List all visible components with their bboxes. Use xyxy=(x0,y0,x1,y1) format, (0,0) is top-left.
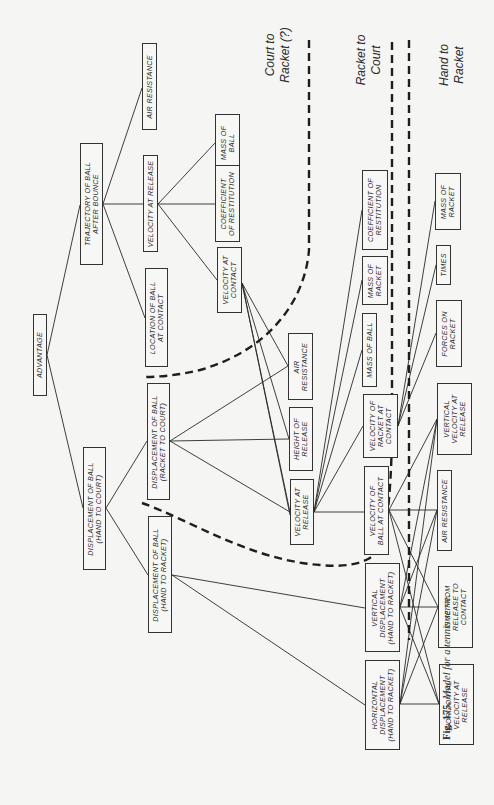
node-forces-on-racket: FORCES ON RACKET xyxy=(436,300,462,367)
racket-to-court-boundary xyxy=(142,40,392,566)
node-displacement-racket-to-court: DISPLACEMENT OF BALL (RACKET TO COURT) xyxy=(147,383,170,500)
node-vertical-displacement: VERTICAL DISPLACEMENT (HAND TO RACKET) xyxy=(365,563,400,652)
node-mass-of-ball-court: MASS OF BALL xyxy=(215,114,240,172)
node-height-of-release: HEIGHT OF RELEASE xyxy=(289,407,313,471)
node-advantage: ADVANTAGE xyxy=(33,314,47,396)
figure-label: Fig. 175. xyxy=(441,702,452,740)
node-air-resistance-hand: AIR RESISTANCE xyxy=(437,470,452,551)
region-label-racket-to-court: Racket to Court xyxy=(354,35,384,86)
node-displacement-hand-to-racket: DISPLACEMENT OF BALL (HAND TO RACKET) xyxy=(148,516,172,633)
node-displacement-hand-to-court: DISPLACEMENT OF BALL (HAND TO COURT) xyxy=(83,447,106,570)
node-trajectory-after-bounce: TRAJECTORY OF BALL AFTER BOUNCE xyxy=(80,143,103,265)
node-velocity-at-release-court: VELOCITY AT RELEASE xyxy=(143,155,158,252)
figure-caption-text: Model for a tennis serve. xyxy=(441,594,452,699)
node-mass-of-racket-hand: MASS OF RACKET xyxy=(435,173,461,230)
region-label-hand-to-racket: Hand to Racket xyxy=(437,44,467,86)
connector-lines xyxy=(0,0,494,805)
node-velocity-at-contact: VELOCITY AT CONTACT xyxy=(217,247,242,313)
node-mass-of-racket-racket: MASS OF RACKET xyxy=(362,256,388,305)
node-coefficient-of-restitution-court: COEFFICIENT OF RESTITUTION xyxy=(215,165,240,242)
node-location-of-ball-at-contact: LOCATION OF BALL AT CONTACT xyxy=(145,268,168,367)
node-coefficient-of-restitution-racket: COEFFICIENT OF RESTITUTION xyxy=(362,170,388,250)
node-horizontal-displacement: HORIZONTAL DISPLACEMENT (HAND TO RACKET) xyxy=(365,660,400,750)
figure-caption: Fig. 175. Model for a tennis serve. xyxy=(441,594,452,740)
node-air-resistance-court: AIR RESISTANCE xyxy=(142,43,157,130)
node-velocity-of-racket-at-contact: VELOCITY OF RACKET AT CONTACT xyxy=(363,394,398,458)
node-mass-of-ball-racket: MASS OF BALL xyxy=(362,313,377,387)
region-label-court-to-racket: Court to Racket (?) xyxy=(263,27,293,82)
tennis-serve-model-diagram: Court to Racket (?) Racket to Court Hand… xyxy=(0,0,494,805)
node-air-resistance-racket: AIR RESISTANCE xyxy=(288,333,313,400)
node-velocity-of-ball-at-contact: VELOCITY OF BALL AT CONTACT xyxy=(364,466,389,555)
node-vertical-velocity-at-release: VERTICAL VELOCITY AT RELEASE xyxy=(437,383,472,455)
node-velocity-at-release-racket: VELOCITY AT RELEASE xyxy=(290,479,314,545)
node-times: TIMES xyxy=(436,245,451,285)
